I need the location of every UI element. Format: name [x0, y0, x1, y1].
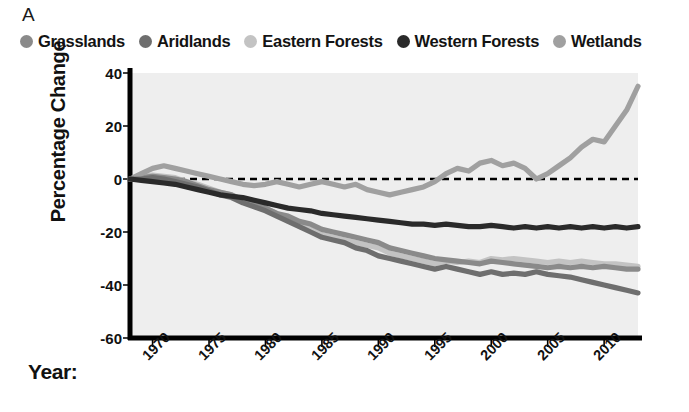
chart-plot-area [0, 0, 689, 412]
plot-background [130, 73, 638, 338]
figure-panel-a: A Grasslands Aridlands Eastern Forests W… [0, 0, 689, 412]
